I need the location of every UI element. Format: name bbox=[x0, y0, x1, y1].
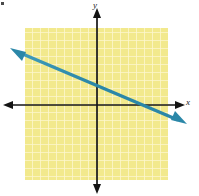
y-axis-label: y bbox=[93, 1, 97, 10]
coordinate-plane bbox=[0, 0, 199, 196]
graph-figure: y x bbox=[0, 0, 199, 196]
x-axis-label: x bbox=[186, 98, 190, 107]
